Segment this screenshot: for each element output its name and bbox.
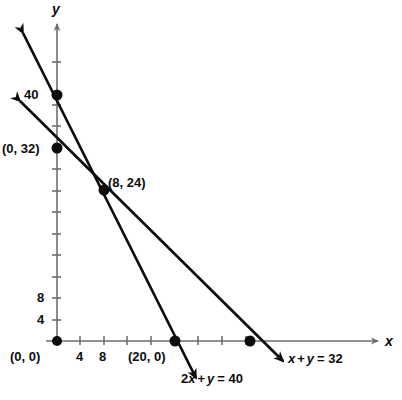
x-tick-label-8: 8 [99, 350, 106, 363]
y-axis-label: y [52, 2, 60, 16]
line-2x-plus-y-40 [23, 33, 196, 378]
eq1-var-x: x [188, 371, 195, 386]
x-axis [46, 336, 378, 345]
y-tick-label-4: 4 [37, 313, 44, 326]
y-tick-label-8: 8 [37, 291, 44, 304]
line-x-plus-y-32 [20, 101, 283, 361]
point-0-40 [52, 90, 63, 101]
eq2-var-x: x [288, 351, 295, 366]
point-32-0 [245, 336, 256, 347]
coordinate-graph-figure: y x 40 8 4 4 8 (0, 0) (0, 32) (8, 24) (2… [0, 0, 402, 400]
point-label-8-24: (8, 24) [108, 176, 146, 189]
eq1-plus: + [197, 371, 205, 386]
equation-label-2x-plus-y-40: 2x+y= 40 [181, 372, 243, 385]
x-tick-label-4: 4 [76, 350, 83, 363]
eq1-rest: = 40 [217, 371, 243, 386]
y-axis [52, 24, 61, 343]
point-0-32 [52, 143, 63, 154]
eq1-var-y: y [207, 371, 214, 386]
point-label-20-0: (20, 0) [128, 350, 166, 363]
point-0-0 [52, 336, 62, 346]
graph-canvas [0, 0, 402, 400]
equation-label-x-plus-y-32: x+y= 32 [288, 352, 343, 365]
point-label-0-32: (0, 32) [2, 142, 40, 155]
eq2-var-y: y [307, 351, 314, 366]
eq2-rest: = 32 [317, 351, 343, 366]
point-20-0 [170, 336, 181, 347]
point-label-origin: (0, 0) [10, 350, 40, 363]
eq2-plus: + [297, 351, 305, 366]
y-tick-label-40: 40 [24, 88, 38, 101]
x-axis-label: x [385, 334, 393, 348]
